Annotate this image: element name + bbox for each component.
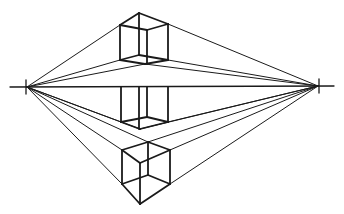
cube-bottom: [122, 142, 170, 204]
cube-middle: [121, 87, 168, 129]
perspective-diagram: [0, 0, 344, 214]
right-vp-construction-lines: [140, 24, 318, 184]
cube-top: [120, 13, 168, 64]
left-vp-construction-lines: [27, 25, 148, 184]
